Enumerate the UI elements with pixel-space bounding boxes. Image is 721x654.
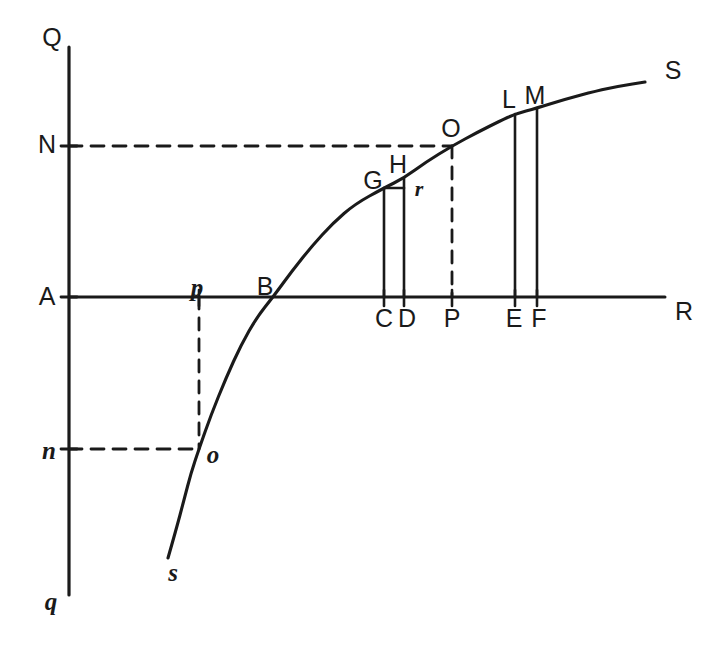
point-label-n: n: [42, 438, 56, 463]
point-label-E: E: [506, 306, 523, 331]
point-label-R: R: [675, 299, 693, 324]
point-label-C: C: [375, 306, 393, 331]
point-label-F: F: [531, 306, 546, 331]
point-label-B: B: [257, 274, 274, 299]
point-label-p: p: [191, 275, 204, 300]
point-label-N: N: [38, 132, 56, 157]
point-label-Q: Q: [42, 25, 61, 50]
point-label-P: P: [444, 306, 461, 331]
point-label-s: s: [168, 560, 178, 585]
point-label-A: A: [39, 284, 56, 309]
diagram-svg: [0, 0, 721, 654]
point-label-H: H: [389, 152, 407, 177]
point-label-M: M: [525, 83, 546, 108]
point-label-S: S: [665, 58, 682, 83]
point-label-O: O: [441, 116, 460, 141]
point-label-r: r: [415, 178, 424, 200]
point-label-G: G: [363, 168, 382, 193]
point-label-L: L: [502, 87, 516, 112]
diagram-strokes: [61, 47, 665, 595]
diagram-canvas: QNAnqpBosGHrOLMSCDPEFR: [0, 0, 721, 654]
point-label-o: o: [207, 442, 220, 467]
point-label-q: q: [45, 589, 58, 614]
point-label-D: D: [398, 306, 416, 331]
